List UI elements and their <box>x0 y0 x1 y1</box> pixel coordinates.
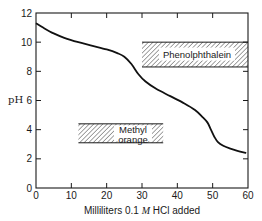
x-tick-label: 60 <box>242 190 254 201</box>
y-tick-label: 4 <box>26 124 32 135</box>
x-tick-label: 20 <box>101 190 113 201</box>
y-tick-label: 8 <box>26 66 32 77</box>
indicator-label: orange <box>118 134 148 145</box>
plot-area <box>36 13 248 188</box>
y-tick-label: 10 <box>21 37 33 48</box>
y-tick-label: 2 <box>26 153 32 164</box>
indicator-box-methyl-orange: Methylorange <box>78 124 163 145</box>
indicator-box-phenolphthalein: Phenolphthalein <box>142 42 248 67</box>
y-tick-label: 0 <box>26 183 32 194</box>
indicator-label: Phenolphthalein <box>163 49 231 60</box>
x-tick-label: 0 <box>33 190 39 201</box>
y-axis-label: pH <box>8 94 23 105</box>
y-tick-label: 12 <box>21 8 33 19</box>
x-axis-ticks: 0102030405060 <box>33 13 254 201</box>
x-tick-label: 50 <box>207 190 219 201</box>
titration-chart: PhenolphthaleinMethylorange 010203040506… <box>0 0 262 221</box>
x-tick-label: 10 <box>66 190 78 201</box>
x-tick-label: 30 <box>136 190 148 201</box>
y-axis-ticks: 024681012 <box>21 8 248 194</box>
x-tick-label: 40 <box>172 190 184 201</box>
y-tick-label: 6 <box>26 95 32 106</box>
x-axis-label: Milliliters 0.1 M HCl added <box>84 205 200 216</box>
